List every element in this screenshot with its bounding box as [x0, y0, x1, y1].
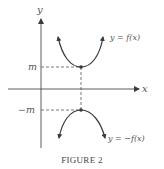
vertex-point-f: [79, 65, 83, 69]
curve-f-right: [81, 37, 103, 67]
x-axis-label: x: [142, 83, 148, 94]
figure-caption: FIGURE 2: [61, 155, 103, 165]
curve-neg-f: [59, 110, 81, 138]
figure-canvas: x y m −m y = f(x) y = −f(x) FIGURE 2: [0, 0, 164, 169]
curve-label-neg-f: y = −f(x): [107, 134, 145, 143]
curve-f: [58, 37, 81, 67]
vertex-point-neg-f: [79, 108, 83, 112]
tick-label-m: m: [28, 61, 37, 72]
curve-neg-f-right: [81, 110, 105, 138]
tick-label-neg-m: −m: [18, 104, 35, 115]
curve-label-f: y = f(x): [109, 33, 140, 42]
y-axis-label: y: [36, 4, 43, 15]
